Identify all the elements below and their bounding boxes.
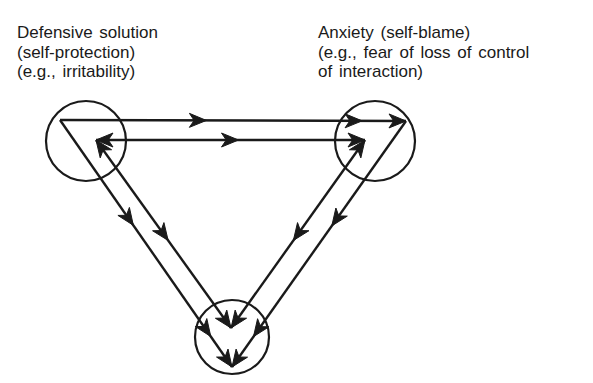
arrowhead-icon bbox=[231, 310, 247, 328]
node-circle-bottom bbox=[195, 300, 269, 374]
cycle-diagram bbox=[0, 0, 593, 383]
arrowhead-icon bbox=[332, 208, 348, 226]
arrowhead-icon bbox=[215, 310, 231, 328]
arrowhead-icon bbox=[217, 349, 232, 367]
arrowhead-icon bbox=[153, 223, 169, 241]
arrowhead-icon bbox=[232, 349, 248, 367]
arrowhead-icon bbox=[293, 223, 309, 241]
arrowhead-icon bbox=[118, 207, 133, 225]
